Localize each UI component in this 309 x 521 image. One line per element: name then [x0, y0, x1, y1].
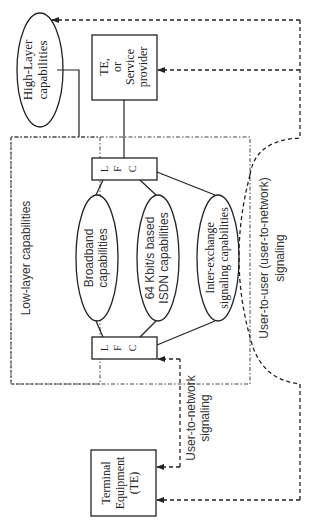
te-provider-label-4: provider	[136, 47, 150, 88]
isdn-label-2: ISDN capabilities	[157, 212, 171, 303]
low-layer-label: Low-layer capabilities	[19, 201, 33, 316]
lfc-top-l: L	[99, 166, 110, 172]
user-to-user-label-1: User-to-user (user-to-network)	[257, 177, 271, 338]
te-provider-label-3: Service	[123, 49, 137, 85]
isdn-capabilities-diagram: High-Layer capabilities TE, or Service p…	[0, 0, 309, 521]
lfc-top-f: F	[112, 166, 123, 172]
broadband-label-2: capabilities	[96, 228, 110, 287]
lfc-top-c: C	[127, 165, 138, 172]
lfc-bottom-to-inter	[157, 321, 215, 345]
outer-signaling-path	[250, 20, 300, 175]
user-to-user-label-2: signaling	[273, 234, 287, 281]
terminal-label-2: Equipment	[113, 456, 127, 509]
inter-exchange-label-1: Inter-exchange	[203, 222, 217, 294]
lfc-bottom-to-broadband	[96, 321, 103, 337]
user-to-network-label-2: signaling	[198, 394, 212, 441]
terminal-label-1: Terminal	[99, 461, 113, 505]
user-to-network-label-1: User-to-network	[184, 374, 198, 460]
inter-exchange-label-2: signaling capabilities	[217, 207, 231, 309]
terminal-label-3: (TE)	[127, 472, 141, 495]
high-layer-label-1: High-Layer	[20, 39, 35, 100]
te-provider-label-2: or	[110, 62, 124, 72]
isdn-label-1: 64 Kbit/s based	[143, 217, 157, 300]
lfc-bottom-f: F	[112, 345, 123, 351]
high-layer-label-2: capabilities	[35, 40, 50, 99]
lfc-bottom-c: C	[127, 344, 138, 351]
lfc-top-to-isdn	[140, 180, 156, 195]
lfc-bottom-l: L	[99, 345, 110, 351]
lfc-top-to-inter	[157, 172, 215, 195]
te-provider-label-1: TE,	[97, 58, 111, 76]
lfc-bottom-to-isdn	[140, 321, 156, 337]
broadband-label-1: Broadband	[82, 229, 96, 288]
